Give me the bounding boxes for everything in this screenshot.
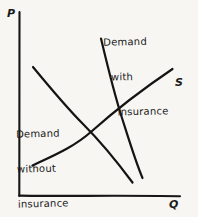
demand-with-insurance-label-line2: with — [104, 70, 168, 83]
supply-demand-insurance-diagram: P Q S Demand with insurance Demand witho… — [0, 0, 198, 217]
demand-without-insurance-label: Demand without insurance — [15, 103, 69, 217]
demand-with-insurance-label: Demand with insurance — [103, 11, 169, 142]
quantity-axis-label: Q — [169, 199, 179, 212]
price-axis-label: P — [7, 8, 15, 21]
demand-without-insurance-label-line3: insurance — [18, 198, 69, 211]
demand-with-insurance-label-line1: Demand — [103, 35, 167, 48]
demand-with-insurance-label-line3: insurance — [105, 106, 169, 119]
supply-curve-label: S — [175, 77, 183, 90]
demand-without-insurance-label-line1: Demand — [16, 127, 67, 140]
demand-without-insurance-label-line2: without — [17, 162, 68, 175]
